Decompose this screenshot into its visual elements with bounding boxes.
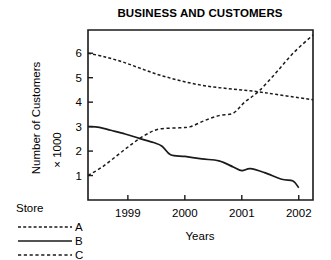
y-tick-label: 2 [76,145,82,157]
business-and-customers-chart: BUSINESS AND CUSTOMERS 123456 1999200020… [0,0,331,260]
y-axis-label-line1: Number of Customers [30,62,42,175]
x-tick-label: 1999 [115,207,141,219]
legend-title: Store [16,202,44,214]
legend: Store ABC [16,202,83,260]
series-line-b [88,127,299,188]
series-line-a [88,53,313,99]
series-line-c [88,35,313,176]
x-tick-label: 2000 [172,207,198,219]
legend-label-b: B [75,235,83,247]
legend-label-c: C [75,249,83,260]
chart-title: BUSINESS AND CUSTOMERS [117,7,282,19]
legend-label-a: A [75,221,83,233]
x-axis-label: Years [186,230,215,242]
data-series-group [88,35,313,188]
y-axis-label-line2: × 1000 [51,132,63,168]
y-tick-label: 3 [76,121,82,133]
x-tick-label: 2002 [286,207,312,219]
y-tick-label: 5 [76,72,82,84]
chart-figure: BUSINESS AND CUSTOMERS 123456 1999200020… [0,0,331,260]
x-axis-ticks: 1999200020012002 [115,195,311,219]
y-tick-label: 1 [76,170,82,182]
y-tick-label: 6 [76,47,82,59]
y-axis-ticks: 123456 [76,47,93,181]
x-tick-label: 2001 [229,207,255,219]
y-tick-label: 4 [76,96,83,108]
legend-items: ABC [18,221,83,260]
plot-frame [88,30,313,200]
